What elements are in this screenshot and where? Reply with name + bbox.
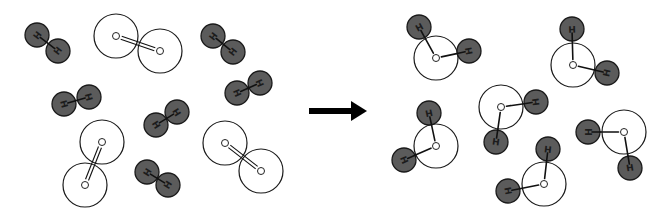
- hydrogen-molecule: HH: [135, 160, 180, 197]
- hydrogen-molecule: HH: [225, 71, 272, 105]
- arrow-shaft: [309, 108, 353, 114]
- oxygen-label-icon: [82, 182, 89, 189]
- bond-end: [497, 130, 498, 138]
- oxygen-molecule: [203, 121, 283, 193]
- hydrogen-molecule: HH: [25, 23, 70, 63]
- oxygen-label-icon: [113, 33, 120, 40]
- reactants-group: HHHHHHHHHHHH: [25, 14, 283, 207]
- oxygen-molecule: [94, 14, 182, 73]
- water-molecules: HHHHHHHHHHHH: [392, 15, 646, 206]
- reaction-arrow-icon: [309, 101, 367, 121]
- hydrogen-molecule: HH: [52, 85, 101, 116]
- oxygen-label-icon: [570, 62, 577, 69]
- reaction-diagram: HHHHHHHHHHHH HHHHHHHHHHHH: [0, 0, 671, 220]
- oxygen-label-icon: [99, 139, 106, 146]
- bond-end: [547, 153, 548, 161]
- water-molecule: HH: [551, 17, 619, 87]
- arrow-head-icon: [351, 101, 367, 121]
- water-molecule: HH: [576, 110, 646, 180]
- oxygen-label-icon: [621, 129, 628, 136]
- oxygen-label-icon: [157, 48, 164, 55]
- oxygen-label-icon: [433, 143, 440, 150]
- oxygen-molecule: [63, 120, 124, 207]
- oxygen-label-icon: [433, 55, 440, 62]
- water-molecule: HH: [407, 15, 481, 80]
- bond-end: [524, 103, 532, 104]
- oxygen-label-icon: [222, 140, 229, 147]
- products-group: HHHHHHHHHHHH: [392, 15, 646, 206]
- oxygen-label-icon: [258, 168, 265, 175]
- hydrogen-molecule: HH: [201, 24, 245, 64]
- water-molecule: HH: [392, 101, 458, 172]
- oxygen-label-icon: [541, 181, 548, 188]
- hydrogen-molecule: HH: [144, 100, 189, 137]
- oxygen-label-icon: [498, 104, 505, 111]
